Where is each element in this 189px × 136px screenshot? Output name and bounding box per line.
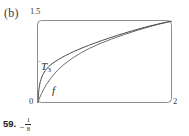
- curve-t3: [38, 21, 172, 102]
- y-axis-max-label: 1.5: [30, 7, 40, 16]
- answer-number: 59.: [3, 117, 16, 130]
- answer-expression: − 1 8: [19, 117, 31, 133]
- plot-frame: [38, 21, 172, 103]
- figure-page: (b) 1.5 0 2 T3 f 59. − 1: [0, 0, 189, 136]
- fraction-numerator: 1: [26, 117, 31, 124]
- plot-figure: 1.5 0 2 T3 f: [0, 0, 189, 116]
- curve-f: [38, 21, 171, 102]
- curve-label-t3-subscript: 3: [47, 66, 51, 74]
- x-axis-max-label: 2: [173, 97, 177, 106]
- curve-label-t3: T3: [41, 61, 51, 74]
- curve-label-f: f: [52, 85, 55, 96]
- origin-label: 0: [29, 97, 33, 106]
- minus-sign: −: [19, 121, 24, 134]
- answer-line: 59. − 1 8: [3, 117, 31, 136]
- fraction-denominator: 8: [26, 126, 31, 133]
- fraction: 1 8: [25, 117, 31, 133]
